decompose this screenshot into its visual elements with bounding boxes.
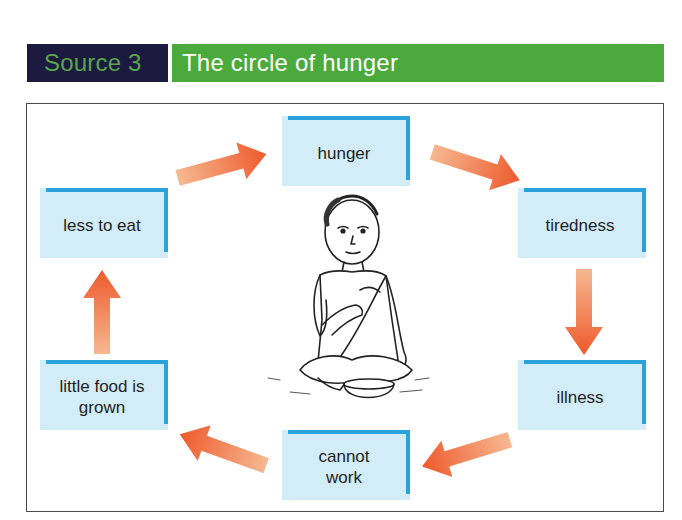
arrow-illness-to-cannot-work: [416, 421, 515, 484]
node-label: tiredness: [518, 192, 642, 258]
arrow-tiredness-to-illness: [565, 269, 603, 355]
node-hunger: hunger: [282, 116, 410, 186]
node-label: little food is grown: [40, 364, 164, 430]
node-less-to-eat: less to eat: [40, 188, 168, 258]
node-label: less to eat: [40, 192, 164, 258]
node-little-food-is-grown: little food is grown: [40, 360, 168, 430]
node-label: hunger: [282, 120, 406, 186]
arrow-cannot-work-to-little-food: [173, 416, 272, 483]
node-cannot-work: cannot work: [282, 430, 410, 500]
arrow-less-to-eat-to-hunger: [173, 136, 272, 197]
node-illness: illness: [518, 360, 646, 430]
node-tiredness: tiredness: [518, 188, 646, 258]
starving-child-illustration: [268, 196, 429, 398]
node-label: illness: [518, 364, 642, 430]
node-label: cannot work: [282, 434, 406, 500]
arrow-little-food-to-less-to-eat: [83, 270, 121, 354]
arrow-hunger-to-tiredness: [426, 134, 525, 199]
